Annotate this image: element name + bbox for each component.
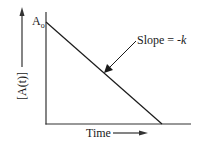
zero-order-kinetics-diagram: [A(t)] Ao Slope = -k Time [0,0,198,144]
x-label-arrow-head-icon [139,131,148,136]
a0-label: Ao [32,14,45,30]
x-axis-label: Time [86,126,111,140]
y-label-arrow-head-icon [20,7,25,16]
slope-pointer-shaft [109,41,136,68]
slope-annotation: Slope = -k [137,33,187,47]
y-axis-label: [A(t)] [15,72,29,100]
